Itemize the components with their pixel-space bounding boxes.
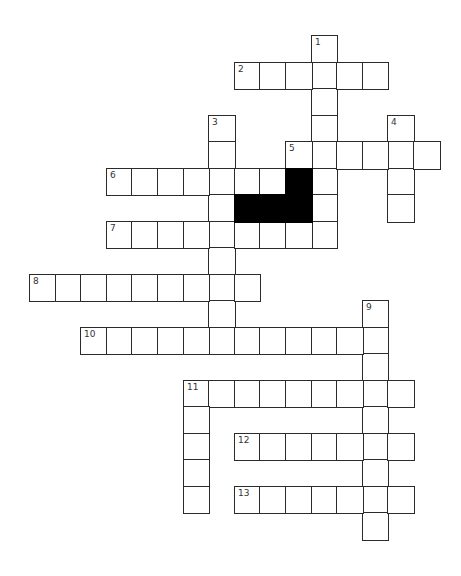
clue-number: 4 [391,118,397,127]
crossword-cell[interactable] [362,433,389,461]
crossword-cell[interactable] [285,327,313,355]
crossword-cell[interactable] [234,274,261,302]
crossword-cell[interactable]: 3 [208,115,236,143]
crossword-cell[interactable] [208,141,236,170]
crossword-cell[interactable] [387,168,415,196]
crossword-cell[interactable]: 11 [183,380,210,408]
crossword-cell[interactable] [336,141,364,170]
crossword-cell[interactable] [131,274,159,302]
crossword-cell[interactable] [311,88,338,117]
crossword-cell[interactable] [208,380,236,408]
crossword-cell[interactable] [259,168,287,196]
crossword-cell[interactable] [387,141,415,170]
crossword-cell[interactable] [311,62,338,90]
crossword-cell[interactable] [234,221,261,249]
crossword-cell[interactable] [208,300,236,329]
clue-number: 8 [33,277,39,286]
crossword-cell[interactable] [55,274,82,302]
crossword-cell[interactable] [362,459,389,488]
crossword-cell[interactable] [362,62,389,90]
crossword-cell[interactable] [157,327,185,355]
crossword-cell[interactable] [259,380,287,408]
crossword-cell[interactable] [259,62,287,90]
crossword-cell[interactable] [259,486,287,514]
crossword-cell[interactable] [387,194,415,223]
crossword-cell[interactable] [183,459,210,488]
crossword-cell[interactable] [362,406,389,435]
crossword-cell[interactable] [208,194,236,223]
crossword-cell[interactable] [285,380,313,408]
crossword-cell[interactable] [387,486,415,514]
crossword-cell[interactable]: 12 [234,433,261,461]
crossword-cell[interactable] [234,327,261,355]
crossword-cell[interactable] [362,141,389,170]
crossword-cell[interactable] [362,380,389,408]
crossword-cell[interactable] [157,168,185,196]
clue-number: 2 [238,65,244,74]
crossword-cell[interactable] [183,486,210,514]
crossword-cell[interactable] [311,486,338,514]
crossword-cell[interactable] [362,486,389,514]
crossword-cell[interactable] [311,168,338,196]
crossword-cell[interactable]: 6 [106,168,133,196]
crossword-cell[interactable] [413,141,441,170]
crossword-cell[interactable] [183,168,210,196]
crossword-cell[interactable] [234,380,261,408]
crossword-cell[interactable] [336,433,364,461]
crossword-cell[interactable] [131,221,159,249]
crossword-cell[interactable] [311,194,338,223]
crossword-cell[interactable] [311,221,338,249]
crossword-cell[interactable]: 1 [311,35,338,64]
crossword-cell[interactable] [183,221,210,249]
crossword-cell[interactable] [157,221,185,249]
crossword-cell[interactable] [387,380,415,408]
crossword-cell[interactable]: 4 [387,115,415,143]
crossword-cell[interactable] [131,327,159,355]
crossword-cell[interactable] [208,221,236,249]
crossword-cell[interactable] [311,327,338,355]
crossword-cell[interactable]: 8 [29,274,57,302]
crossword-cell[interactable] [311,115,338,143]
crossword-cell[interactable] [311,433,338,461]
black-square [285,194,313,223]
crossword-cell[interactable] [285,486,313,514]
crossword-cell[interactable]: 7 [106,221,133,249]
crossword-cell[interactable] [183,327,210,355]
crossword-cell[interactable] [285,433,313,461]
crossword-cell[interactable] [234,168,261,196]
crossword-cell[interactable] [336,486,364,514]
crossword-cell[interactable] [387,433,415,461]
crossword-cell[interactable] [80,274,108,302]
crossword-cell[interactable] [208,247,236,276]
crossword-cell[interactable] [336,62,364,90]
crossword-cell[interactable]: 2 [234,62,261,90]
crossword-cell[interactable]: 13 [234,486,261,514]
crossword-cell[interactable]: 10 [80,327,108,355]
clue-number: 11 [187,383,198,392]
crossword-cell[interactable] [336,327,364,355]
crossword-cell[interactable] [183,274,210,302]
crossword-cell[interactable] [208,168,236,196]
crossword-cell[interactable] [285,62,313,90]
crossword-cell[interactable] [362,353,389,382]
black-square [259,194,287,223]
crossword-cell[interactable]: 9 [362,300,389,329]
crossword-cell[interactable] [362,327,389,355]
crossword-cell[interactable] [311,380,338,408]
crossword-cell[interactable]: 5 [285,141,313,170]
crossword-cell[interactable] [311,141,338,170]
crossword-cell[interactable] [362,512,389,541]
crossword-cell[interactable] [106,274,133,302]
crossword-cell[interactable] [183,406,210,435]
crossword-cell[interactable] [336,380,364,408]
crossword-cell[interactable] [131,168,159,196]
crossword-cell[interactable] [208,327,236,355]
crossword-cell[interactable] [259,433,287,461]
crossword-cell[interactable] [157,274,185,302]
crossword-cell[interactable] [208,274,236,302]
crossword-cell[interactable] [259,327,287,355]
crossword-cell[interactable] [106,327,133,355]
crossword-cell[interactable] [183,433,210,461]
crossword-cell[interactable] [259,221,287,249]
crossword-cell[interactable] [285,221,313,249]
